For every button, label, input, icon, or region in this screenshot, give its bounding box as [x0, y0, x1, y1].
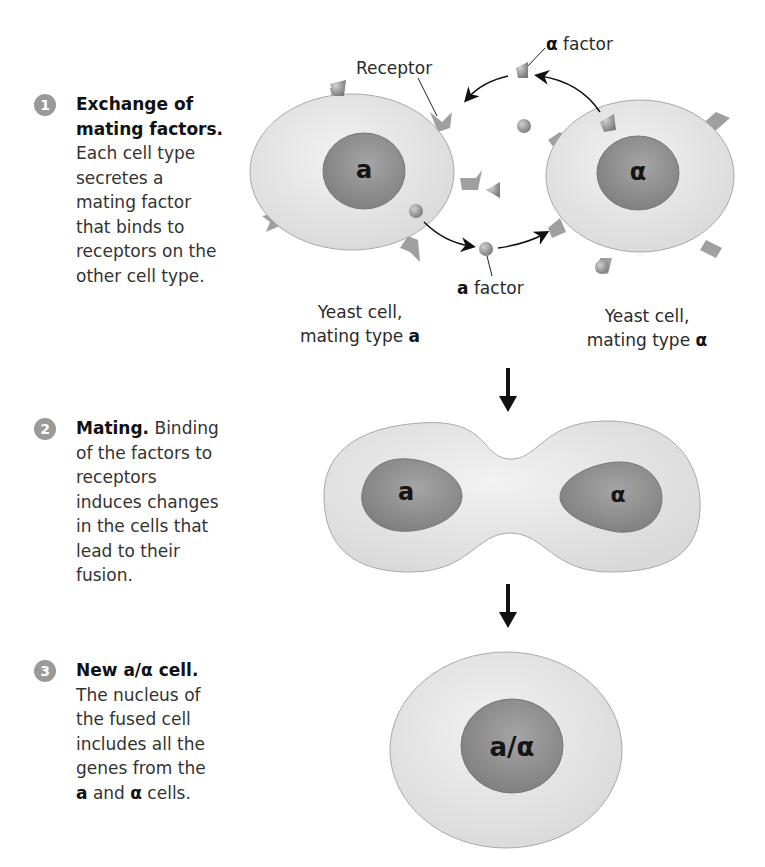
step-1-body-line: that binds to	[76, 215, 276, 240]
step-2-body-line: induces changes	[76, 490, 276, 515]
mating-type: α	[696, 330, 708, 350]
step-1-title-line2: mating factors.	[76, 117, 276, 142]
step-1-body-line: secretes a	[76, 166, 276, 191]
step-3-body-line: The nucleus of	[76, 683, 276, 708]
step-3-body-line: the fused cell	[76, 707, 276, 732]
arrow-alpha-factor	[540, 76, 600, 112]
step-2-body-line: in the cells that	[76, 514, 276, 539]
a-symbol: a	[457, 278, 468, 298]
receptor-label: Receptor	[356, 56, 432, 80]
step-2-body-line: of the factors to	[76, 441, 276, 466]
alpha-symbol: α	[546, 34, 558, 54]
step-2-body-line: fusion.	[76, 563, 276, 588]
fusing-nucleus-a-label: a	[386, 478, 426, 506]
cells-text: cells.	[142, 783, 191, 803]
alpha-factor-free-2	[486, 182, 500, 198]
cell-alpha-caption: Yeast cell, mating type α	[572, 304, 722, 352]
fusing-nucleus-alpha-label: α	[598, 482, 638, 507]
caption-line1: Yeast cell,	[290, 300, 430, 324]
arrow-a-factor-2	[498, 234, 544, 248]
alpha-factor-free	[516, 62, 528, 78]
a-factor-moving	[479, 242, 493, 256]
a-factor-free	[517, 119, 531, 133]
caption-line2: mating type a	[290, 324, 430, 348]
step-3-title: New a/α cell.	[76, 658, 276, 683]
nucleus-alpha-label: α	[618, 158, 658, 186]
down-arrow-1	[499, 368, 517, 412]
step-3: 3 New a/α cell. The nucleus of the fused…	[36, 658, 276, 805]
step-2: 2 Mating. Binding of the factors to rece…	[36, 416, 276, 588]
step-1-body-line: Each cell type	[76, 141, 276, 166]
alpha-symbol: α	[130, 783, 142, 803]
caption-line1: Yeast cell,	[572, 304, 722, 328]
caption-text: mating type	[587, 330, 696, 350]
step-1-body-line: mating factor	[76, 190, 276, 215]
receptor-pointer	[418, 78, 437, 116]
step-1: 1 Exchange of mating factors. Each cell …	[36, 92, 276, 288]
step-1-body-line: receptors on the	[76, 239, 276, 264]
step-number-badge: 3	[34, 660, 56, 682]
alpha-factor-pointer	[528, 48, 545, 66]
caption-line2: mating type α	[572, 328, 722, 352]
step-3-body-line: genes from the	[76, 756, 276, 781]
diploid-nucleus-label: a/α	[470, 732, 554, 762]
down-arrow-2	[499, 584, 517, 628]
a-factor-label: a factor	[457, 276, 524, 300]
step-2-title: Mating.	[76, 418, 149, 438]
bound-a-factor	[595, 260, 609, 274]
cell-a-caption: Yeast cell, mating type a	[290, 300, 430, 348]
nucleus-a-label: a	[344, 156, 384, 184]
factor-text: factor	[468, 278, 523, 298]
step-number-badge: 2	[34, 418, 56, 440]
caption-text: mating type	[300, 326, 409, 346]
step-1-title-line1: Exchange of	[76, 92, 276, 117]
step-3-body-last-line: a and α cells.	[76, 781, 276, 806]
a-symbol: a	[76, 783, 87, 803]
arrow-alpha-factor-2	[468, 76, 508, 98]
step-2-body-line: lead to their	[76, 539, 276, 564]
step-2-body-first: Binding	[149, 418, 219, 438]
step-3-body-line: includes all the	[76, 732, 276, 757]
and-text: and	[87, 783, 130, 803]
step-2-body-line: receptors	[76, 465, 276, 490]
a-factor-pointer	[487, 256, 492, 276]
step-number-badge: 1	[34, 94, 56, 116]
a-factor-leaving	[409, 204, 423, 218]
factor-text: factor	[558, 34, 613, 54]
alpha-factor-label: α factor	[546, 32, 613, 56]
arrow-a-factor	[424, 222, 470, 246]
step-1-body-line: other cell type.	[76, 264, 276, 289]
mating-type: a	[409, 326, 420, 346]
